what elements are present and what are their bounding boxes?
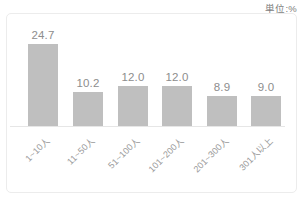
bar-value-label: 8.9 xyxy=(214,81,230,93)
bar-value-label: 24.7 xyxy=(32,29,55,41)
x-axis-labels: 1~10人 11~50人 51~100人 101~200人 201~300人 3… xyxy=(0,128,305,198)
bar-value-label: 9.0 xyxy=(258,81,274,93)
x-axis-tick-label: 1~10人 xyxy=(22,134,52,164)
x-axis-tick-label: 201~300人 xyxy=(190,134,231,175)
bar-value-label: 10.2 xyxy=(77,77,100,89)
x-axis-tick-label: 11~50人 xyxy=(64,134,97,167)
bar xyxy=(118,86,148,126)
x-axis-tick-label: 101~200人 xyxy=(145,134,186,175)
bar-chart-figure: 単位:% 24.7 10.2 12.0 12.0 8.9 9.0 xyxy=(0,0,305,201)
x-axis-tick-label: 301人以上 xyxy=(236,134,275,173)
bar xyxy=(73,92,103,126)
bar-value-label: 12.0 xyxy=(122,71,145,83)
bar xyxy=(251,96,281,126)
bar-value-label: 12.0 xyxy=(166,71,189,83)
x-axis-tick-label: 51~100人 xyxy=(105,134,142,171)
bar xyxy=(207,96,237,126)
bar xyxy=(162,86,192,126)
bar xyxy=(28,44,58,126)
